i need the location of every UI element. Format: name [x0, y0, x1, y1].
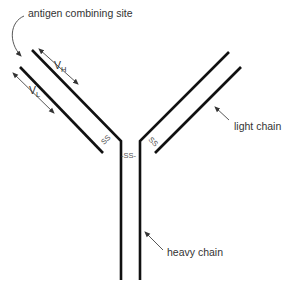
light-chain-right — [155, 67, 241, 153]
antigen-site-label: antigen combining site — [28, 7, 133, 19]
heavy-chain-left — [32, 50, 121, 280]
heavy-chain-label: heavy chain — [167, 246, 223, 258]
ss-left-label: SS — [99, 133, 112, 146]
ss-right-label: SS — [147, 135, 160, 148]
curved-arrow-icon — [12, 16, 24, 56]
light-chain-label: light chain — [234, 120, 281, 132]
vh-label: VH — [54, 59, 66, 74]
light-chain-arrow-icon — [215, 107, 229, 120]
heavy-chain-arrow-icon — [145, 232, 163, 250]
ss-center-label: -SS- — [121, 151, 137, 160]
antibody-diagram: antigen combining site VH VL SS -SS- SS … — [0, 0, 295, 293]
